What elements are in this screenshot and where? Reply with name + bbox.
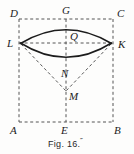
figure-container: D G C L Q K N M A E B Fig. 16. ˝ [0,0,134,154]
geometry-diagram: D G C L Q K N M A E B Fig. 16. ˝ [0,0,134,154]
figure-caption: Fig. 16. [48,139,80,149]
vertex-label-a: A [9,124,17,136]
vertex-label-g: G [62,4,70,16]
segment-km-chord [66,44,111,91]
caption-suffix-mark: ˝ [80,138,83,145]
vertex-label-m: M [68,90,79,102]
segment-lm-chord [21,44,66,91]
vertex-label-n: N [60,67,69,79]
vertex-label-b: B [114,124,121,136]
vertex-label-k: K [117,38,126,50]
vertex-label-d: D [9,7,18,19]
vertex-label-e: E [60,124,68,136]
vertex-label-q: Q [70,30,78,42]
vertex-label-c: C [117,7,125,19]
vertex-label-l: L [6,37,13,49]
